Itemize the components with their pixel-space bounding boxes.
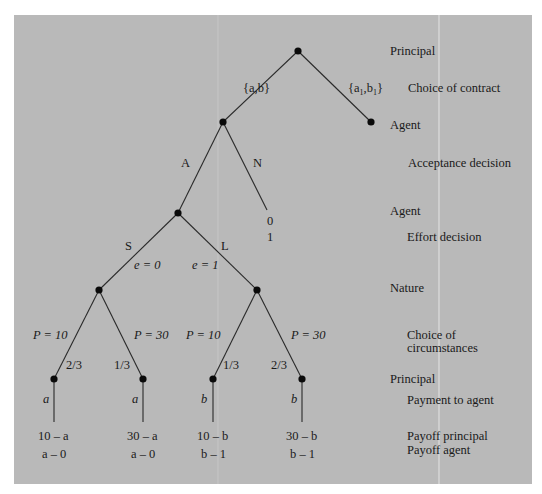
label-payment-2: a bbox=[132, 392, 138, 406]
label-effort-low: e = 0 bbox=[134, 258, 161, 272]
node-nature-low bbox=[95, 286, 102, 293]
label-contract-a1b1: {a1,b1} bbox=[348, 81, 383, 97]
label-reject: N bbox=[253, 156, 262, 170]
label-contract-ab: {a,b} bbox=[243, 81, 270, 95]
stage-choice-of-circumstances: circumstances bbox=[407, 341, 478, 355]
label-payment-3: b bbox=[201, 392, 207, 406]
stage-choice-of-circumstances: Choice of bbox=[407, 328, 457, 342]
stage-principal: Principal bbox=[390, 372, 436, 386]
label-effort-high: e = 1 bbox=[192, 258, 218, 272]
node-agent-alt bbox=[367, 118, 374, 125]
label-payoff-principal-4: 30 – b bbox=[286, 429, 317, 443]
label-payment-4: b bbox=[291, 392, 297, 406]
node-nature-high bbox=[253, 286, 260, 293]
node-principal-leaf bbox=[139, 375, 146, 382]
label-payment-1: a bbox=[43, 392, 49, 406]
edge-contract-a1b1 bbox=[298, 51, 371, 122]
stage-nature: Nature bbox=[390, 281, 424, 295]
node-principal-leaf bbox=[298, 375, 305, 382]
node-principal-leaf bbox=[50, 375, 57, 382]
label-prob-1: 2/3 bbox=[66, 358, 82, 372]
label-price-3: P = 10 bbox=[185, 328, 221, 342]
node-principal-root bbox=[294, 47, 301, 54]
label-price-4: P = 30 bbox=[290, 328, 326, 342]
node-agent-accept bbox=[219, 118, 226, 125]
tree-edges bbox=[54, 51, 371, 422]
label-prob-4: 2/3 bbox=[271, 358, 287, 372]
stage-acceptance-decision: Acceptance decision bbox=[408, 156, 512, 170]
label-payoff-agent-3: b – 1 bbox=[201, 447, 226, 461]
label-payoff-principal-1: 10 – a bbox=[38, 429, 69, 443]
label-price-2: P = 30 bbox=[133, 328, 169, 342]
label-reject-payoff-principal: 0 bbox=[267, 214, 273, 228]
stage-agent: Agent bbox=[390, 204, 421, 218]
stage-choice-of-contract: Choice of contract bbox=[408, 81, 501, 95]
stage-effort-decision: Effort decision bbox=[407, 230, 482, 244]
label-prob-3: 1/3 bbox=[223, 358, 239, 372]
label-prob-2: 1/3 bbox=[114, 358, 130, 372]
label-payoff-agent-2: a – 0 bbox=[131, 447, 155, 461]
stage-payoff-principal: Payoff principal bbox=[407, 429, 488, 443]
label-payoff-agent-1: a – 0 bbox=[42, 447, 66, 461]
label-reject-payoff-agent: 1 bbox=[267, 230, 273, 244]
node-agent-effort bbox=[174, 209, 181, 216]
label-payoff-principal-2: 30 – a bbox=[127, 429, 158, 443]
label-price-1: P = 10 bbox=[32, 328, 68, 342]
label-shirk: S bbox=[125, 239, 132, 253]
label-accept: A bbox=[181, 156, 190, 170]
label-payoff-agent-4: b – 1 bbox=[290, 447, 315, 461]
label-labor: L bbox=[221, 239, 229, 253]
stage-principal: Principal bbox=[390, 44, 436, 58]
game-tree-diagram: {a,b} {a1,b1} A N 0 1 S L e = 0 e = 1 P … bbox=[0, 0, 542, 494]
edge-shirk bbox=[99, 213, 178, 290]
stage-payment-to-agent: Payment to agent bbox=[407, 393, 494, 407]
node-principal-leaf bbox=[209, 375, 216, 382]
stage-payoff-agent: Payoff agent bbox=[407, 443, 471, 457]
label-payoff-principal-3: 10 – b bbox=[197, 429, 228, 443]
stage-agent: Agent bbox=[390, 118, 421, 132]
